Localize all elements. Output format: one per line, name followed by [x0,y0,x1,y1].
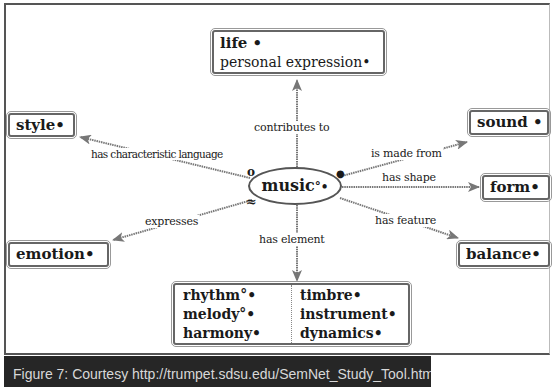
node-music-marker: °• [315,180,329,194]
node-emotion-label: emotion• [16,245,95,263]
node-life-subtitle: personal expression• [220,53,377,72]
edge-label-has-shape: has shape [381,171,437,184]
edge-label-has-element: has element [258,233,326,246]
node-music[interactable]: music°• [248,167,342,205]
node-form[interactable]: form• [482,175,550,200]
node-elements[interactable]: rhythm°• melody°• harmony• timbre• instr… [173,283,410,345]
node-style-label: style• [16,116,65,134]
element-item: instrument• [300,305,400,324]
edge-label-has-feature: has feature [374,214,437,227]
element-item: dynamics• [300,324,400,343]
node-form-label: form• [490,178,540,196]
edge-label-contributes-to: contributes to [253,121,331,134]
open-circle-icon: o [247,166,255,178]
elements-right-column: timbre• instrument• dynamics• [291,285,408,343]
node-style[interactable]: style• [8,113,75,137]
node-life[interactable]: life • personal expression• [212,30,385,74]
figure-caption: Figure 7: Courtesy http://trumpet.sdsu.e… [4,356,431,387]
element-item: harmony• [183,324,283,343]
edge-label-has-characteristic-language: has characteristic language [90,148,224,160]
element-item: timbre• [300,286,400,305]
elements-left-column: rhythm°• melody°• harmony• [175,285,291,343]
wave-icon: ≈ [246,196,257,208]
node-sound-label: sound • [477,113,543,131]
edge-label-expresses: expresses [144,215,199,228]
node-balance[interactable]: balance• [458,242,550,267]
node-emotion[interactable]: emotion• [8,242,109,267]
edge-label-is-made-from: is made from [370,147,443,160]
node-balance-label: balance• [466,245,541,263]
node-music-label: music [261,176,314,195]
element-item: melody°• [183,305,283,324]
element-item: rhythm°• [183,286,283,305]
node-sound[interactable]: sound • [469,110,549,135]
node-life-title: life • [220,34,377,53]
filled-circle-icon: ● [336,168,345,180]
